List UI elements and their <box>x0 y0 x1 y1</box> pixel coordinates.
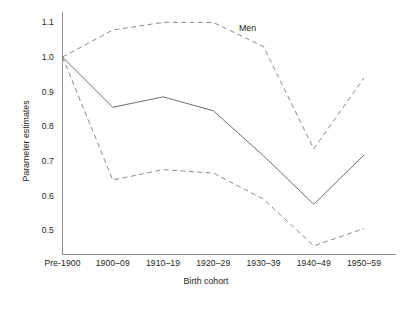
chart-container: 1.11.00.90.80.70.60.5 Pre-19001900–09191… <box>0 0 412 311</box>
y-tick-label: 1.1 <box>28 17 54 27</box>
lower-confidence-line <box>63 57 365 246</box>
parameter-estimate-line <box>63 57 365 204</box>
y-tick-label: 0.9 <box>28 87 54 97</box>
y-tick-label: 0.7 <box>28 156 54 166</box>
x-tick-label: 1950–59 <box>347 258 381 268</box>
x-tick-label: 1920–29 <box>196 258 230 268</box>
x-tick-label: 1900–09 <box>96 258 130 268</box>
series-annotation-men: Men <box>239 23 256 33</box>
y-tick-label: 0.8 <box>28 121 54 131</box>
y-tick-label: 1.0 <box>28 52 54 62</box>
x-tick-label: 1930–39 <box>246 258 280 268</box>
y-tick-label: 0.6 <box>28 191 54 201</box>
x-tick-label: Pre-1900 <box>44 258 80 268</box>
upper-confidence-line <box>63 22 365 148</box>
x-axis-title: Birth cohort <box>0 276 412 286</box>
y-tick-label: 0.5 <box>28 225 54 235</box>
y-axis-title: Parameter estimates <box>21 71 31 211</box>
x-tick-label: 1940–49 <box>297 258 331 268</box>
x-tick-label: 1910–19 <box>146 258 180 268</box>
